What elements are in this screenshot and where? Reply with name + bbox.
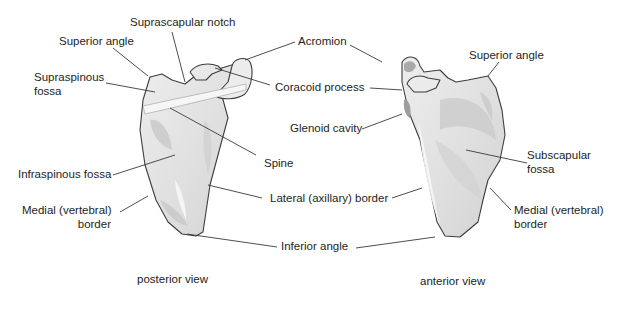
- anterior-scapula: [402, 57, 505, 237]
- label-glenoid-cavity: Glenoid cavity: [290, 122, 362, 136]
- label-medial-border-anterior: Medial (vertebral) border: [514, 204, 603, 231]
- label-subscapular-fossa-line2: fossa: [527, 163, 555, 175]
- label-medial-border-posterior-line1: Medial (vertebral): [22, 204, 111, 216]
- label-spine: Spine: [264, 157, 293, 171]
- label-subscapular-fossa-line1: Subscapular: [527, 149, 591, 161]
- label-infraspinous-fossa: Infraspinous fossa: [18, 168, 111, 182]
- label-medial-border-posterior-line2: border: [78, 218, 111, 230]
- label-medial-border-posterior: Medial (vertebral) border: [22, 204, 111, 231]
- label-supraspinous-fossa-line2: fossa: [34, 85, 62, 97]
- label-subscapular-fossa: Subscapular fossa: [527, 149, 591, 176]
- label-coracoid-process: Coracoid process: [275, 81, 364, 95]
- label-superior-angle-anterior: Superior angle: [469, 49, 544, 63]
- label-inferior-angle: Inferior angle: [281, 240, 348, 254]
- label-superior-angle-posterior: Superior angle: [59, 35, 134, 49]
- posterior-scapula: [140, 59, 252, 236]
- caption-posterior-view: posterior view: [137, 273, 208, 285]
- label-supraspinous-fossa-line1: Supraspinous: [34, 71, 104, 83]
- label-lateral-border: Lateral (axillary) border: [270, 192, 388, 206]
- label-suprascapular-notch: Suprascapular notch: [130, 16, 235, 30]
- label-medial-border-anterior-line1: Medial (vertebral): [514, 204, 603, 216]
- label-medial-border-anterior-line2: border: [514, 218, 547, 230]
- caption-anterior-view: anterior view: [420, 275, 485, 287]
- label-acromion: Acromion: [298, 35, 347, 49]
- label-supraspinous-fossa: Supraspinous fossa: [34, 71, 104, 98]
